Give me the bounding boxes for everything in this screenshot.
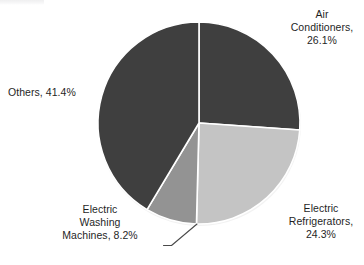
pie-label-electric-refrigerators: Electric Refrigerators, 24.3% xyxy=(278,202,364,242)
leader-line-electric-washing-machines xyxy=(164,224,198,246)
pie-slices-group xyxy=(98,22,300,224)
pie-label-electric-washing-machines: Electric Washing Machines, 8.2% xyxy=(36,203,164,243)
pie-label-air-conditioners: Air Conditioners, 26.1% xyxy=(281,8,363,48)
pie-label-others: Others, 41.4% xyxy=(8,86,100,99)
pie-chart-figure: Air Conditioners, 26.1% Electric Refrige… xyxy=(0,0,364,265)
